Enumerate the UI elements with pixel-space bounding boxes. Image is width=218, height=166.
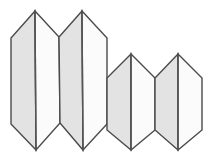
prism-1-right-face (35, 11, 60, 150)
prism-1-ridge-line (35, 11, 36, 150)
prism-3-right-face (131, 54, 155, 150)
prism-3 (107, 54, 155, 150)
prism-diagram (0, 0, 218, 166)
prism-2-ridge-line (82, 11, 83, 150)
prism-2-left-face (59, 11, 83, 150)
prism-4-right-face (178, 54, 202, 150)
prism-4 (155, 54, 202, 150)
prism-1 (11, 11, 60, 150)
prism-2 (59, 11, 107, 150)
prism-3-left-face (107, 54, 131, 150)
prism-1-left-face (11, 11, 36, 150)
prism-2-right-face (82, 11, 107, 150)
prism-4-left-face (155, 54, 178, 150)
figure-canvas (0, 0, 218, 166)
